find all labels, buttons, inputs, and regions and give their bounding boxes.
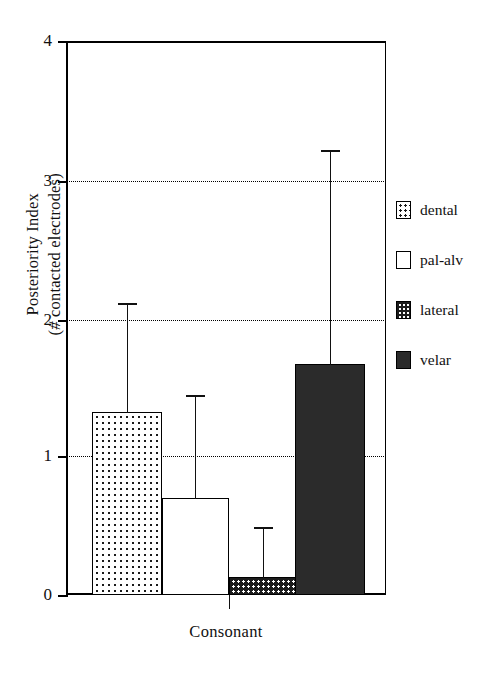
y-axis-title: Posteriority Index (# contacted electrod…	[22, 124, 67, 384]
legend-label-pal-alv: pal-alv	[420, 250, 463, 270]
errorbar-cap-lateral	[254, 527, 273, 529]
legend-item-dental: dental	[396, 200, 480, 250]
legend-swatch-pal-alv-icon	[396, 251, 411, 269]
bar-dental	[92, 412, 162, 595]
x-axis-minor-tick	[229, 595, 230, 609]
legend: dental pal-alv lateral velar	[396, 200, 480, 400]
legend-item-pal-alv: pal-alv	[396, 250, 480, 300]
errorbar-line-velar	[330, 150, 331, 365]
bar-lateral	[229, 577, 298, 595]
errorbar-line-dental	[127, 303, 128, 413]
legend-item-lateral: lateral	[396, 300, 480, 350]
errorbar-cap-pal-alv	[186, 395, 205, 397]
y-axis-title-line1: Posteriority Index	[23, 193, 42, 315]
y-tick-label-4: 4	[22, 32, 52, 49]
bar-velar	[295, 364, 365, 595]
legend-swatch-lateral-icon	[396, 301, 411, 319]
legend-label-dental: dental	[420, 200, 458, 220]
bar-chart-figure: 4 3 2 1 0 Posteriority Index (# contacte…	[0, 0, 480, 680]
legend-label-velar: velar	[420, 350, 451, 370]
y-tick-mark-1	[58, 456, 68, 458]
errorbar-line-lateral	[263, 527, 264, 578]
gridline-2	[66, 320, 386, 321]
y-axis-title-line2: (# contacted electrodes)	[44, 124, 66, 384]
gridline-3	[66, 181, 386, 182]
errorbar-cap-dental	[118, 303, 137, 305]
legend-swatch-velar-icon	[396, 351, 411, 369]
errorbar-cap-velar	[321, 150, 340, 152]
y-tick-mark-4	[58, 41, 68, 43]
hash-symbol: #	[45, 321, 64, 329]
bar-pal-alv	[162, 498, 229, 595]
y-tick-label-0: 0	[22, 586, 52, 603]
x-axis-title: Consonant	[66, 622, 386, 642]
legend-label-lateral: lateral	[420, 300, 459, 320]
y-tick-mark-0	[58, 595, 68, 597]
y-tick-label-1: 1	[22, 447, 52, 464]
legend-item-velar: velar	[396, 350, 480, 400]
legend-swatch-dental-icon	[396, 201, 411, 219]
errorbar-line-pal-alv	[195, 395, 196, 499]
